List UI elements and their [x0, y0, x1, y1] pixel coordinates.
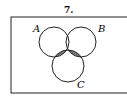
label-c: C	[77, 79, 85, 90]
label-b: B	[97, 23, 105, 34]
label-a: A	[32, 23, 40, 34]
venn-diagram: 7. A B C	[0, 0, 127, 103]
circle-a	[39, 27, 69, 57]
problem-number: 7.	[64, 5, 73, 15]
circle-c	[52, 50, 84, 82]
circle-b	[66, 27, 96, 57]
